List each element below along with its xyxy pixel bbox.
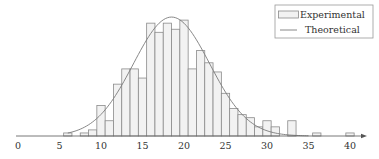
histogram-bar: [346, 133, 354, 136]
histogram-bar: [205, 63, 213, 136]
x-axis: 0510152025303540: [15, 134, 367, 151]
x-tick-label: 35: [302, 140, 314, 151]
x-tick-label: 15: [136, 140, 148, 151]
legend: Experimental Theoretical: [275, 5, 373, 38]
x-tick-label: 5: [56, 140, 62, 151]
legend-label-theoretical: Theoretical: [305, 24, 360, 35]
histogram-bar: [138, 78, 146, 136]
histogram-bar: [263, 121, 271, 136]
histogram-bar: [271, 127, 279, 136]
histogram-chart: 0510152025303540 Experimental Theoretica…: [0, 0, 379, 159]
histogram-bar: [89, 130, 97, 136]
histogram-bar: [313, 133, 321, 136]
histogram-bar: [213, 72, 221, 136]
x-tick-label: 20: [178, 140, 190, 151]
histogram-bar: [172, 29, 180, 136]
histogram-bar: [246, 118, 254, 136]
x-tick-label: 40: [344, 140, 356, 151]
histogram-bar: [147, 23, 155, 136]
histogram-bar: [180, 20, 188, 136]
x-tick-label: 0: [15, 140, 21, 151]
legend-label-experimental: Experimental: [300, 9, 365, 20]
x-tick-label: 10: [95, 140, 107, 151]
x-tick-label: 30: [261, 140, 273, 151]
histogram-bar: [196, 51, 204, 136]
histogram-bar: [122, 69, 130, 136]
histogram-bar: [97, 106, 105, 137]
histogram-bar: [163, 23, 171, 136]
histogram-bar: [105, 121, 113, 136]
histogram-bar: [155, 32, 163, 136]
histogram-bar: [64, 133, 72, 136]
legend-bar-swatch-icon: [279, 11, 299, 18]
histogram-bar: [188, 69, 196, 136]
histogram-bar: [80, 133, 88, 136]
histogram-bar: [221, 93, 229, 136]
histogram-bar: [230, 109, 238, 136]
histogram-bar: [288, 121, 296, 136]
histogram-bar: [130, 69, 138, 136]
x-tick-label: 25: [219, 140, 231, 151]
